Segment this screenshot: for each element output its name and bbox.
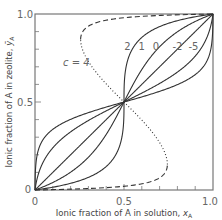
- x-tick-0: 0: [32, 196, 38, 207]
- x-tick-0.5: 0.5: [116, 196, 132, 207]
- y-axis-title: Ionic fraction of A in zeolite, ȳA: [4, 36, 15, 168]
- curve-label-c2: 2: [124, 41, 130, 52]
- x-axis-title: Ionic fraction of A in solution, xA: [56, 208, 193, 219]
- curve-label-c0: 0: [153, 41, 159, 52]
- isotherm-chart: 0 0.5 1.0 0 0.5 1.0 Ionic fraction of A …: [0, 0, 222, 220]
- curve-label-c4: c = 4: [63, 57, 90, 68]
- y-tick-1.0: 1.0: [17, 9, 33, 20]
- curve-c4-upper-dashed: [81, 14, 213, 40]
- x-tick-1.0: 1.0: [202, 196, 218, 207]
- curve-c4-lower-dashed: [35, 164, 167, 190]
- curve-labels: 210-2-5: [124, 41, 198, 52]
- curve-label-c-5: -5: [188, 41, 198, 52]
- curve-label-c1: 1: [139, 41, 145, 52]
- curve-label-c-2: -2: [172, 41, 182, 52]
- y-tick-0: 0: [25, 184, 31, 195]
- y-tick-0.5: 0.5: [17, 97, 33, 108]
